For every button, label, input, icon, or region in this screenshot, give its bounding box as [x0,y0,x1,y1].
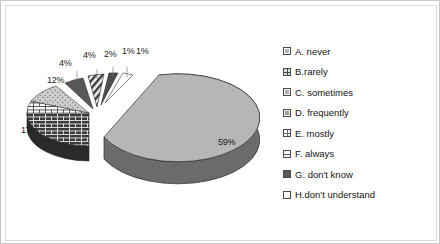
pie-label-g-dont-know: 1% [122,46,135,56]
legend-swatch-c-icon [283,88,291,96]
legend-item-a-never[interactable]: A. never [283,41,433,62]
legend-item-h-dont-understand[interactable]: H.don't understand [283,185,433,206]
legend-label-d-frequently: D. frequently [295,108,349,118]
pie-chart-svg [9,29,279,219]
legend-item-c-sometimes[interactable]: C. sometimes [283,82,433,103]
legend-label-a-never: A. never [295,47,330,57]
legend-label-b-rarely: B.rarely [295,67,328,77]
pie-slice-a-never [104,74,260,184]
legend-swatch-f-icon [283,150,291,158]
legend-item-d-frequently[interactable]: D. frequently [283,103,433,124]
chart-frame: 12% 17% 4% 4% 2% 1% 1% 59% A. never B.ra… [0,0,440,244]
pie-label-e-mostly: 4% [59,58,72,68]
legend-label-c-sometimes: C. sometimes [295,88,353,98]
legend-label-h-dont-understand: H.don't understand [295,190,375,200]
legend-swatch-g-icon [283,170,291,178]
pie-label-h-dont-understand: 1% [136,46,149,56]
pie-label-a-never: 59% [218,137,235,147]
legend-item-g-dont-know[interactable]: G. don't know [283,164,433,185]
legend-item-b-rarely[interactable]: B.rarely [283,62,433,83]
legend-label-e-mostly: E. mostly [295,129,334,139]
legend-swatch-a-icon [283,47,291,55]
legend-label-f-always: F. always [295,149,334,159]
legend-item-f-always[interactable]: F. always [283,144,433,165]
legend-swatch-d-icon [283,109,291,117]
pie-label-d-frequently: 4% [83,50,96,60]
legend-item-e-mostly[interactable]: E. mostly [283,123,433,144]
legend-swatch-b-icon [283,68,291,76]
chart-plot-area: 12% 17% 4% 4% 2% 1% 1% 59% A. never B.ra… [9,9,433,237]
pie-slice-b-rarely [27,113,89,161]
pie-label-f-always: 2% [104,49,117,59]
legend-swatch-h-icon [283,191,291,199]
pie-label-c-sometimes: 12% [47,75,64,85]
pie-chart: 12% 17% 4% 4% 2% 1% 1% 59% [9,29,279,219]
legend-swatch-e-icon [283,129,291,137]
pie-label-b-rarely: 17% [21,125,38,135]
legend-label-g-dont-know: G. don't know [295,170,353,180]
chart-legend: A. never B.rarely C. sometimes D. freque… [283,41,433,205]
